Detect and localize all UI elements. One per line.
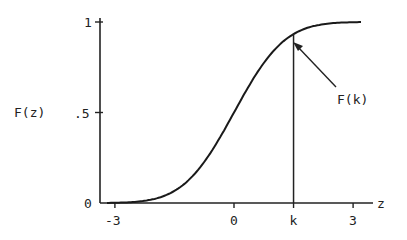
x-tick-label: -3: [105, 213, 121, 228]
x-tick-label: k: [290, 213, 298, 228]
y-ticks: 0.51: [74, 15, 103, 211]
x-tick-label: 0: [230, 213, 238, 228]
y-tick-label: 1: [84, 15, 92, 30]
annotation-arrow: [293, 42, 336, 87]
x-axis-label: z: [377, 196, 385, 211]
y-axis-label: F(z): [14, 105, 45, 120]
arrow-head-icon: [293, 42, 303, 51]
y-tick-label: 0: [84, 196, 92, 211]
arrow-shaft: [297, 46, 336, 87]
annotation-label: F(k): [337, 92, 368, 107]
x-tick-label: 3: [349, 213, 357, 228]
cdf-chart: 0.51 -30k3 F(k) F(z) z: [0, 0, 407, 240]
cdf-curve: [107, 22, 361, 203]
y-tick-label: .5: [74, 106, 90, 121]
axes: [100, 18, 373, 203]
x-ticks: -30k3: [105, 203, 357, 228]
